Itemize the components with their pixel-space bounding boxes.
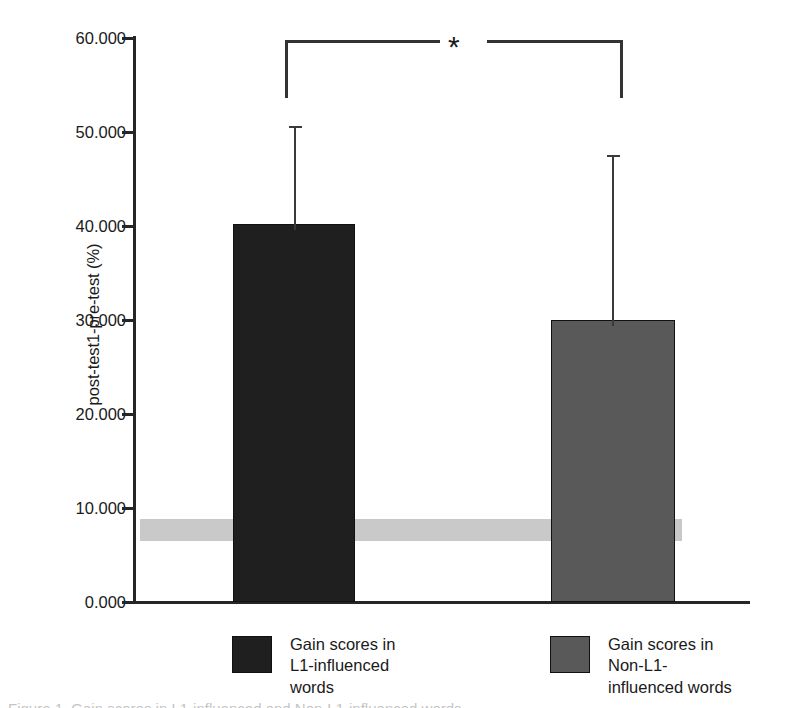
y-axis-tick-mark xyxy=(122,601,134,604)
error-bar-l1-influenced xyxy=(294,126,296,230)
y-axis-tick-mark xyxy=(122,319,134,322)
legend-swatch-l1-influenced xyxy=(232,636,272,673)
error-bar-cap-non-l1-influenced xyxy=(607,155,620,157)
y-axis-tick-mark xyxy=(122,131,134,134)
bar-chart-figure: post-test1-pre-test (%) 60.00050.00040.0… xyxy=(0,0,794,708)
y-axis-tick-mark xyxy=(122,507,134,510)
significance-bracket-right-arm xyxy=(620,40,623,98)
significance-bracket-left-arm xyxy=(285,40,288,98)
chart-legend: Gain scores in L1-influenced wordsGain s… xyxy=(0,612,794,708)
significance-asterisk: * xyxy=(448,32,460,62)
error-bar-cap-l1-influenced xyxy=(289,126,302,128)
significance-bracket-right-bar xyxy=(487,40,623,43)
legend-item-non-l1-influenced: Gain scores in Non-L1- influenced words xyxy=(550,634,732,698)
significance-bracket-left-bar xyxy=(285,40,440,43)
y-axis-tick-mark xyxy=(122,37,134,40)
y-axis-tick-mark xyxy=(122,225,134,228)
error-bar-non-l1-influenced xyxy=(612,155,614,326)
bar-non-l1-influenced xyxy=(551,320,675,602)
figure-caption: Figure 1. Gain scores in L1-influenced a… xyxy=(8,700,462,708)
legend-swatch-non-l1-influenced xyxy=(550,636,590,673)
legend-item-l1-influenced: Gain scores in L1-influenced words xyxy=(232,634,395,698)
legend-label-non-l1-influenced: Gain scores in Non-L1- influenced words xyxy=(608,634,732,698)
bar-l1-influenced xyxy=(233,224,355,602)
plot-area: * xyxy=(0,0,794,708)
y-axis-tick-mark xyxy=(122,413,134,416)
legend-label-l1-influenced: Gain scores in L1-influenced words xyxy=(290,634,395,698)
